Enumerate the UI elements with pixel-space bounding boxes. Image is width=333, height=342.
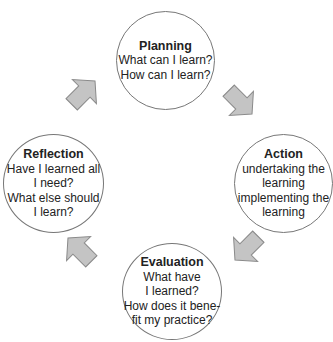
node-text: I need? [33,176,73,191]
node-text: I learned? [145,284,198,299]
node-text: What can I learn? [118,53,212,68]
arrow-reflection-to-planning [60,69,107,116]
node-text: Have I learned all [7,162,100,177]
node-reflection: Reflection Have I learned all I need? Wh… [3,134,104,233]
node-text: learning [262,176,305,191]
node-title: Evaluation [140,255,203,270]
arrow-action-to-evaluation [223,225,270,272]
arrow-planning-to-action [217,79,264,126]
arrow-evaluation-to-reflection [56,226,103,273]
node-title: Planning [139,39,192,54]
node-evaluation: Evaluation What have I learned? How does… [122,243,222,340]
node-text: undertaking the [242,162,325,177]
node-text: How does it bene- [124,299,221,314]
node-text: implementing the [238,191,329,206]
node-title: Action [264,147,303,162]
node-text: What else should [7,191,99,206]
node-text: learning [262,205,305,220]
node-title: Reflection [23,147,83,162]
node-text: I learn? [33,205,73,220]
node-text: How can I learn? [120,68,210,83]
node-text: fit my practice? [132,313,213,328]
node-action: Action undertaking the learning implemen… [234,134,333,233]
node-text: What have [143,270,200,285]
node-planning: Planning What can I learn? How can I lea… [116,11,215,110]
